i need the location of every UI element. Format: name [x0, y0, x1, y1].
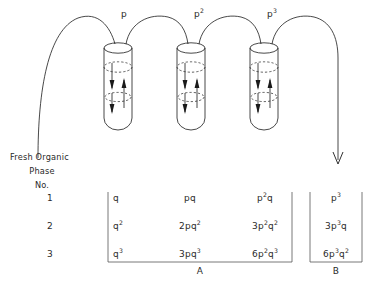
group-label-a: A: [197, 266, 203, 276]
table-cell-r1c1: q: [113, 193, 119, 203]
tube-1-flow-arrows: [110, 63, 127, 114]
table-cell-r3c4: 6p3q2: [323, 249, 349, 259]
table-cell-r3c3: 6p2q3: [252, 249, 278, 259]
inlet-label-line-3: No.: [35, 180, 49, 190]
countercurrent-extraction-diagram: [0, 0, 374, 284]
table-cell-r1c4: p3: [331, 193, 341, 203]
flow-arc-3: [272, 16, 338, 58]
arc-label-2-exp: 2: [200, 7, 204, 14]
inlet-label-line-2: Phase: [29, 166, 54, 176]
tube-2-flow-arrows: [183, 63, 200, 114]
flow-arc-1: [126, 16, 188, 44]
arc-label-2: p2: [194, 9, 204, 19]
row-header-3: 3: [47, 249, 53, 259]
row-header-2: 2: [47, 221, 53, 231]
table-cell-r1c3: p2q: [257, 193, 273, 203]
flow-inlet-curve: [38, 16, 115, 158]
table-cell-r2c3: 3p2q2: [252, 221, 278, 231]
flow-arc-2: [199, 16, 261, 44]
tube-3-flow-arrows: [256, 63, 273, 114]
arc-label-1-base: p: [121, 9, 127, 19]
flow-outlet-arrow: [333, 58, 343, 164]
extraction-tube-3: [250, 43, 278, 130]
table-cell-r1c2: pq: [184, 193, 196, 203]
table-cell-r3c1: q3: [113, 249, 123, 259]
group-label-b: B: [333, 266, 339, 276]
row-header-1: 1: [47, 193, 53, 203]
table-cell-r3c2: 3pq3: [179, 249, 201, 259]
table-cell-r2c1: q2: [113, 221, 123, 231]
arc-label-1: p: [121, 9, 127, 19]
arc-label-3-exp: 3: [273, 7, 277, 14]
extraction-tube-2: [177, 43, 205, 130]
table-cell-r2c2: 2pq2: [179, 221, 201, 231]
inlet-label-line-1: Fresh Organic: [10, 152, 69, 162]
arc-label-3: p3: [267, 9, 277, 19]
table-cell-r2c4: 3p3q: [325, 221, 347, 231]
extraction-tube-1: [104, 43, 132, 130]
